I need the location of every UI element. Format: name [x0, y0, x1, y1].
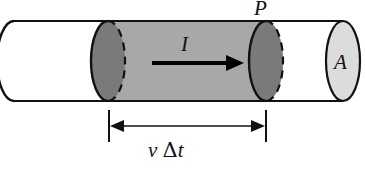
dimension-arrowhead-right — [251, 120, 265, 132]
label-point-p: P — [254, 0, 267, 19]
label-area-a: A — [334, 52, 347, 73]
label-time-t: t — [178, 138, 184, 162]
dimension-arrowhead-left — [110, 120, 124, 132]
label-delta-symbol: Δ — [163, 138, 178, 162]
figure-canvas: P I A v Δt — [0, 0, 365, 172]
label-length-v-delta-t: v Δt — [148, 140, 184, 161]
label-current-i: I — [181, 34, 188, 55]
dimension-line-group — [109, 110, 266, 142]
label-velocity-v: v — [148, 138, 157, 162]
